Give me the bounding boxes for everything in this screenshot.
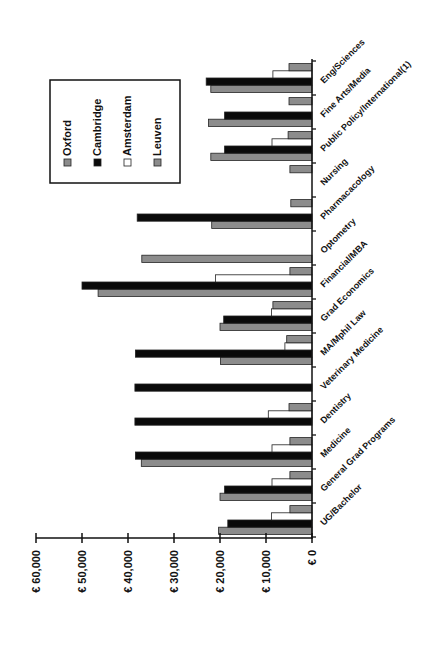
bar-amsterdam <box>272 513 313 520</box>
bar-amsterdam <box>285 343 312 350</box>
bar-cambridge <box>135 384 312 391</box>
bar-cambridge <box>135 452 312 459</box>
category-label: Veterinary Medicine <box>318 325 385 392</box>
value-tick-label: € 60,000 <box>30 550 42 593</box>
bar-cambridge <box>135 418 312 425</box>
legend-swatch-cambridge <box>94 159 101 166</box>
bar-cambridge <box>225 146 312 153</box>
legend-label-amsterdam: Amsterdam <box>121 95 133 156</box>
bar-amsterdam <box>273 71 312 78</box>
bar-oxford <box>209 119 313 126</box>
bar-oxford <box>98 289 312 296</box>
bar-cambridge <box>228 520 312 527</box>
bar-cambridge <box>225 112 312 119</box>
bar-leuven <box>290 472 312 479</box>
bar-leuven <box>289 98 312 105</box>
bar-leuven <box>290 438 312 445</box>
value-tick-label: € 40,000 <box>122 550 134 593</box>
bar-oxford <box>220 493 312 500</box>
bar-leuven <box>273 302 312 309</box>
bar-amsterdam <box>272 139 312 146</box>
bar-oxford <box>211 85 312 92</box>
legend-swatch-oxford <box>64 159 71 166</box>
bar-leuven <box>289 64 312 71</box>
bar-cambridge <box>135 350 312 357</box>
bar-leuven <box>288 132 312 139</box>
bar-amsterdam <box>215 275 312 282</box>
bar-oxford <box>142 255 312 262</box>
value-tick-label: € 0 <box>306 550 318 565</box>
bar-oxford <box>221 357 313 364</box>
legend: OxfordCambridgeAmsterdamLeuven <box>50 80 180 183</box>
value-axis-labels: € 0€ 10,000€ 20,000€ 30,000€ 40,000€ 50,… <box>30 550 318 593</box>
bar-leuven <box>287 336 312 343</box>
bar-leuven <box>290 166 312 173</box>
legend-swatch-leuven <box>154 159 161 166</box>
value-tick-label: € 50,000 <box>76 550 88 593</box>
category-label: Dentistry <box>318 391 353 426</box>
bar-amsterdam <box>272 309 313 316</box>
bar-oxford <box>212 221 312 228</box>
legend-label-leuven: Leuven <box>151 117 163 156</box>
legend-label-cambridge: Cambridge <box>91 99 103 156</box>
bar-oxford <box>220 323 312 330</box>
bar-cambridge <box>206 78 312 85</box>
bar-cambridge <box>137 214 312 221</box>
bar-amsterdam <box>268 411 312 418</box>
bar-chart: € 0€ 10,000€ 20,000€ 30,000€ 40,000€ 50,… <box>0 0 430 651</box>
category-axis-labels: UG/BachelorGeneral Grad ProgramsMedicine… <box>318 37 412 527</box>
value-tick-label: € 20,000 <box>214 550 226 593</box>
bar-leuven <box>291 200 312 207</box>
bar-oxford <box>211 153 312 160</box>
category-label: Medicine <box>318 425 352 459</box>
legend-label-oxford: Oxford <box>61 120 73 156</box>
bar-leuven <box>290 506 312 513</box>
bar-leuven <box>290 268 312 275</box>
value-tick-label: € 30,000 <box>168 550 180 593</box>
value-tick-label: € 10,000 <box>260 550 272 593</box>
bar-leuven <box>289 404 312 411</box>
bar-cambridge <box>224 316 312 323</box>
bar-amsterdam <box>272 479 312 486</box>
bar-oxford <box>141 459 312 466</box>
legend-swatch-amsterdam <box>124 159 131 166</box>
bar-amsterdam <box>272 445 312 452</box>
bar-cambridge <box>82 282 312 289</box>
category-label: Nursing <box>318 156 349 187</box>
bar-cambridge <box>225 486 312 493</box>
